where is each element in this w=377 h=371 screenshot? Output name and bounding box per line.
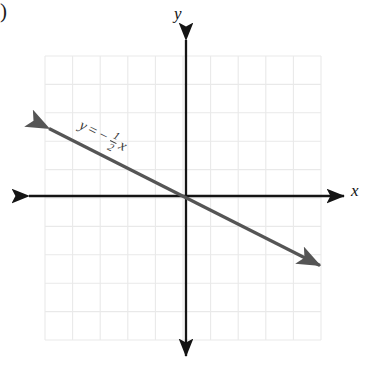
- grid-lines: [45, 56, 321, 340]
- coordinate-plane-svg: [0, 0, 377, 371]
- fraction-denominator: 2: [105, 141, 117, 154]
- y-axis-label: y: [174, 4, 182, 24]
- graph-figure: ): [0, 0, 377, 371]
- x-axis-label: x: [351, 181, 359, 201]
